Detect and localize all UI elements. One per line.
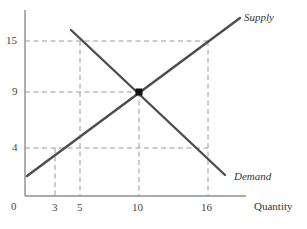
x-axis-tick-label-5: 5 xyxy=(77,201,83,213)
x-axis-title: Quantity xyxy=(254,200,293,212)
x-axis-tick-label-16: 16 xyxy=(201,201,212,213)
x-axis-tick-label-0: 0 xyxy=(11,200,17,212)
equilibrium-point-marker xyxy=(136,89,143,96)
x-axis-tick-label-10: 10 xyxy=(132,201,143,213)
y-axis-tick-label-4: 4 xyxy=(12,141,18,153)
chart-canvas xyxy=(0,0,307,229)
supply-curve-label: Supply xyxy=(244,11,274,23)
demand-curve-label: Demand xyxy=(234,170,271,182)
demand-curve xyxy=(71,30,225,175)
y-axis-tick-label-15: 15 xyxy=(6,34,17,46)
supply-demand-chart: 15 9 4 0 3 5 10 16 Quantity Supply Deman… xyxy=(0,0,307,229)
y-axis-tick-label-9: 9 xyxy=(12,85,18,97)
x-axis-tick-label-3: 3 xyxy=(52,201,58,213)
